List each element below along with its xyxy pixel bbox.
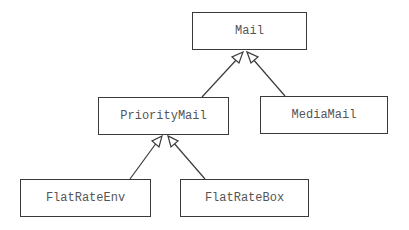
hollow-triangle-icon — [232, 52, 243, 63]
arrow-media-to-mail — [252, 58, 285, 96]
class-media-mail: MediaMail — [260, 96, 388, 134]
class-label: PriorityMail — [120, 109, 206, 123]
class-priority-mail: PriorityMail — [98, 97, 229, 135]
arrow-flatenv-to-priority — [130, 142, 157, 179]
hollow-triangle-icon — [247, 52, 258, 63]
class-label: MediaMail — [292, 108, 357, 122]
class-label: FlatRateEnv — [46, 191, 125, 205]
arrow-priority-to-mail — [202, 58, 238, 97]
class-flat-rate-box: FlatRateBox — [180, 179, 309, 217]
class-flat-rate-env: FlatRateEnv — [20, 179, 151, 217]
hollow-triangle-icon — [152, 136, 162, 147]
class-mail: Mail — [192, 12, 307, 50]
class-label: FlatRateBox — [205, 191, 284, 205]
class-diagram: Mail PriorityMail MediaMail FlatRateEnv … — [0, 0, 409, 230]
arrow-flatbox-to-priority — [173, 142, 205, 179]
class-label: Mail — [235, 24, 264, 38]
